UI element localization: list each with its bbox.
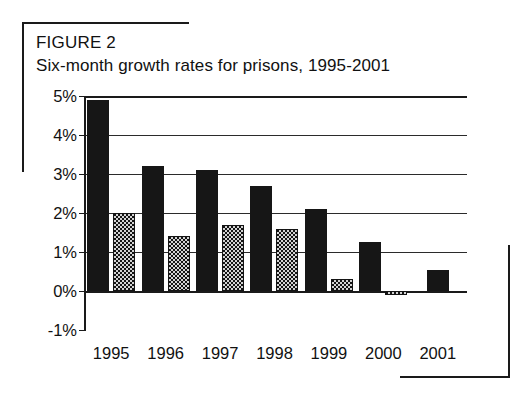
bar-first-half-2000[interactable] <box>359 242 381 291</box>
y-axis-tick-label: 3% <box>53 166 77 183</box>
figure-container: FIGURE 2 Six-month growth rates for pris… <box>0 0 532 406</box>
y-axis-tick-label: -1% <box>48 322 77 339</box>
x-axis-labels: 1995199619971998199920002001 <box>84 344 465 368</box>
bar-second-half-1995[interactable] <box>113 213 135 291</box>
y-axis-tick-mark <box>79 291 86 292</box>
x-axis-label-1995: 1995 <box>93 344 130 363</box>
y-axis-tick-mark <box>79 174 86 175</box>
figure-title: Six-month growth rates for prisons, 1995… <box>36 56 390 76</box>
x-axis-label-1998: 1998 <box>256 344 293 363</box>
bar-group-2000 <box>358 96 412 330</box>
bar-second-half-1997[interactable] <box>222 225 244 291</box>
y-axis-tick-mark <box>79 213 86 214</box>
y-axis-tick-label: 4% <box>53 127 77 144</box>
bar-second-half-1999[interactable] <box>331 279 353 291</box>
y-axis-tick-mark <box>79 96 86 97</box>
bar-group-1996 <box>140 96 194 330</box>
chart-plot-area: 5%4%3%2%1%0%-1% <box>84 96 465 330</box>
x-axis-label-2001: 2001 <box>419 344 456 363</box>
bar-first-half-1999[interactable] <box>305 209 327 291</box>
y-axis-tick-mark <box>79 330 86 331</box>
y-axis-tick-mark <box>79 252 86 253</box>
bar-first-half-1997[interactable] <box>196 170 218 291</box>
x-axis-label-2000: 2000 <box>365 344 402 363</box>
figure-label: FIGURE 2 <box>36 33 116 53</box>
bar-second-half-2000[interactable] <box>385 291 407 295</box>
y-axis-tick-label: 2% <box>53 205 77 222</box>
bar-second-half-1998[interactable] <box>276 229 298 291</box>
bar-first-half-1995[interactable] <box>87 100 109 291</box>
x-axis-label-1997: 1997 <box>202 344 239 363</box>
bar-first-half-2001[interactable] <box>427 270 449 291</box>
bar-first-half-1996[interactable] <box>142 166 164 291</box>
bar-group-1999 <box>304 96 358 330</box>
bar-group-2001 <box>413 96 467 330</box>
x-axis-label-1996: 1996 <box>147 344 184 363</box>
bar-first-half-1998[interactable] <box>250 186 272 291</box>
bar-second-half-1996[interactable] <box>168 236 190 291</box>
y-axis-tick-mark <box>79 135 86 136</box>
y-axis-tick-label: 5% <box>53 88 77 105</box>
bar-group-1997 <box>195 96 249 330</box>
bar-group-1998 <box>249 96 303 330</box>
bar-group-1995 <box>86 96 140 330</box>
y-axis-tick-label: 0% <box>53 283 77 300</box>
y-axis-tick-label: 1% <box>53 244 77 261</box>
x-axis-label-1999: 1999 <box>311 344 348 363</box>
